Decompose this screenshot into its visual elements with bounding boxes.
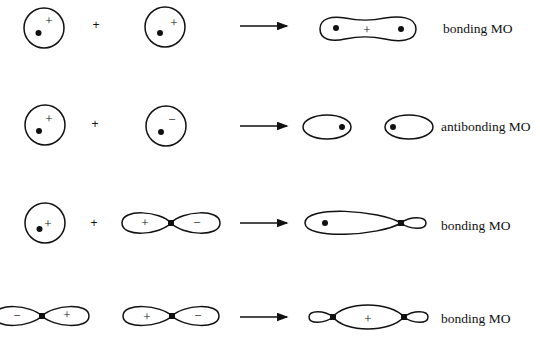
phase-sign: +	[363, 22, 370, 37]
phase-sign: −	[168, 112, 175, 127]
phase-sign: +	[44, 216, 51, 231]
p-orbital-1: − +	[0, 307, 89, 326]
plus-operator: +	[91, 117, 98, 131]
row-3: + + + − bonding MO	[25, 203, 511, 243]
bonding-mo-sigma-pp: +	[309, 305, 428, 329]
phase-sign: −	[13, 308, 20, 323]
phase-sign: +	[141, 215, 148, 230]
row-2: + + − antibonding MO	[25, 105, 531, 146]
phase-sign: −	[194, 308, 201, 323]
bonding-mo-sigma-ss: +	[320, 17, 416, 41]
plus-operator: +	[90, 216, 97, 230]
mo-diagram: + + + + bonding MO + + −	[0, 0, 540, 347]
s-orbital-1: +	[24, 8, 64, 48]
phase-sign: +	[63, 307, 70, 322]
phase-sign: +	[364, 311, 371, 326]
phase-sign: +	[45, 13, 52, 28]
s-orbital: +	[25, 203, 65, 243]
p-orbital-2: + −	[123, 307, 219, 326]
mo-label: bonding MO	[441, 311, 511, 326]
s-orbital-1: +	[25, 105, 65, 145]
row-4: − + + − + bonding MO	[0, 305, 511, 329]
phase-sign: −	[193, 215, 200, 230]
plus-operator: +	[92, 18, 99, 32]
phase-sign: +	[170, 15, 177, 30]
mo-label: bonding MO	[443, 21, 513, 36]
phase-sign: +	[143, 309, 150, 324]
row-1: + + + + bonding MO	[24, 7, 513, 48]
phase-sign: +	[45, 111, 52, 126]
p-orbital: + −	[122, 213, 220, 233]
antibonding-mo-lobe-left	[303, 115, 351, 139]
mo-label: bonding MO	[441, 218, 511, 233]
s-orbital-2: +	[145, 7, 185, 47]
mo-label: antibonding MO	[441, 119, 531, 134]
antibonding-mo-lobe-right	[385, 115, 433, 139]
s-orbital-2: −	[146, 106, 186, 146]
bonding-mo-sigma-sp	[305, 211, 426, 234]
